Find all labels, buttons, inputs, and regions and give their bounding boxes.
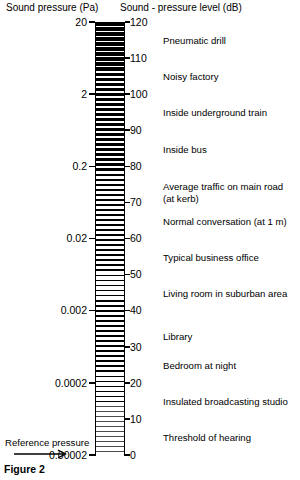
gradient-stripe [95,345,125,346]
gradient-stripe [95,184,125,187]
gradient-stripe [95,143,125,146]
gradient-stripe [95,426,125,427]
gradient-stripe [95,138,125,141]
gradient-stripe [95,214,125,216]
gradient-stripe [95,108,125,111]
db-tick-label: 100 [130,89,148,100]
pa-tick-label: 0.2 [72,161,87,172]
gradient-stripe [95,386,125,387]
gradient-stripe [95,391,125,392]
gradient-stripe [95,269,125,271]
sound-pressure-level-figure: Sound pressure (Pa) Sound - pressure lev… [0,0,300,480]
gradient-stripe [95,451,125,452]
db-tick-label: 20 [130,378,142,389]
gradient-stripe [95,441,125,442]
gradient-stripe [95,305,125,307]
sound-intensity-gradient-bar [95,22,125,455]
gradient-stripe [95,310,125,312]
gradient-stripe [95,234,125,236]
gradient-stripe [95,73,125,76]
sound-source-annotation: Inside underground train [163,107,267,119]
gradient-stripe [95,118,125,121]
figure-caption: Figure 2 [4,463,45,475]
gradient-stripe [95,78,125,81]
gradient-stripe [95,381,125,382]
gradient-stripe [95,340,125,342]
gradient-stripe [95,401,125,402]
gradient-stripe [95,98,125,101]
db-tick-label: 0 [130,450,136,461]
gradient-stripe [95,47,125,51]
pa-tick [89,382,95,384]
db-tick-label: 70 [130,197,142,208]
gradient-stripe [95,93,125,96]
sound-source-annotation: Typical business office [163,252,259,264]
gradient-stripe [95,416,125,417]
gradient-stripe [95,37,125,41]
gradient-stripe [95,209,125,211]
gradient-stripe [95,199,125,201]
gradient-stripe [95,189,125,192]
db-tick-label: 30 [130,342,142,353]
gradient-stripe [95,325,125,327]
gradient-stripe [95,254,125,256]
gradient-stripe [95,436,125,437]
sound-source-annotation: Noisy factory [163,71,218,83]
gradient-stripe [95,396,125,397]
gradient-stripe [95,370,125,371]
pa-tick-label: 0.0002 [55,378,87,389]
gradient-stripe [95,330,125,332]
gradient-stripe [95,280,125,282]
gradient-stripe [95,148,125,151]
gradient-stripe [95,290,125,292]
gradient-stripe [95,32,125,36]
gradient-stripe [95,315,125,317]
gradient-stripe [95,239,125,241]
gradient-stripe [95,335,125,337]
sound-source-annotation: Average traffic on main road (at kerb) [163,181,283,204]
sound-source-annotation: Bedroom at night [163,360,236,372]
db-tick-label: 40 [130,305,142,316]
gradient-stripe [95,264,125,266]
gradient-stripe [95,153,125,156]
sound-source-annotation: Library [163,331,192,343]
gradient-stripe [95,219,125,221]
gradient-stripe [95,421,125,422]
gradient-stripe [95,83,125,86]
gradient-stripe [95,158,125,161]
pa-tick [89,310,95,312]
sound-source-annotation: Threshold of hearing [163,432,251,444]
gradient-stripe [95,229,125,231]
pa-tick [89,238,95,240]
gradient-stripe [95,224,125,226]
gradient-stripe [95,320,125,322]
gradient-stripe [95,62,125,66]
gradient-stripe [95,88,125,91]
sound-source-annotation: Insulated broadcasting studio [163,396,288,408]
gradient-stripe [95,244,125,246]
gradient-stripe [95,22,125,26]
db-tick-label: 90 [130,125,142,136]
gradient-stripe [95,179,125,182]
scale-bar-left-edge [95,22,96,456]
gradient-stripe [95,168,125,171]
gradient-stripe [95,133,125,136]
sound-pressure-level-axis-heading: Sound - pressure level (dB) [120,2,242,14]
gradient-stripe [95,350,125,351]
gradient-stripe [95,123,125,126]
gradient-stripe [95,42,125,46]
reference-pressure-label: Reference pressure [5,437,89,448]
gradient-stripe [95,275,125,277]
gradient-stripe [95,360,125,361]
gradient-stripe [95,431,125,432]
gradient-stripe [95,204,125,206]
gradient-stripe [95,194,125,197]
gradient-stripe [95,249,125,251]
gradient-stripe [95,128,125,131]
db-tick-label: 60 [130,233,142,244]
gradient-stripe [95,103,125,106]
pa-tick [89,93,95,95]
db-tick-label: 110 [130,53,147,64]
sound-pressure-axis-heading: Sound pressure (Pa) [6,2,98,14]
pa-tick [89,454,95,456]
